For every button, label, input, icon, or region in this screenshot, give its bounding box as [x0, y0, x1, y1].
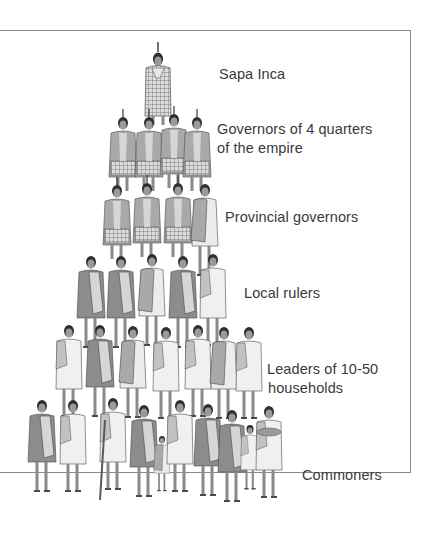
label-governors-line1: Governors of 4 quarters — [217, 120, 372, 139]
tier-governors-figures — [109, 106, 211, 191]
label-local-rulers: Local rulers — [244, 284, 320, 303]
label-household-leaders-line2: households — [268, 379, 343, 398]
label-provincial-governors: Provincial governors — [225, 208, 358, 227]
label-household-leaders-line1: Leaders of 10-50 — [267, 360, 378, 379]
pyramid-illustration — [0, 0, 429, 534]
label-sapa-inca: Sapa Inca — [219, 65, 285, 84]
label-commoners: Commoners — [302, 466, 382, 485]
label-governors-line2: of the empire — [217, 139, 303, 158]
